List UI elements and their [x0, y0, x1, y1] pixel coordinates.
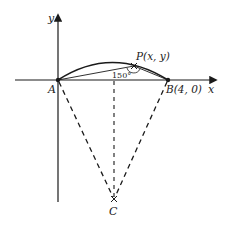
point-a-label: A [47, 83, 56, 96]
x-axis-label: x [208, 83, 215, 96]
segment-p-b [134, 66, 168, 80]
y-axis-label: y [47, 12, 55, 25]
angle-label: 150° [112, 71, 131, 80]
point-a-dot [56, 78, 60, 82]
point-b-label: B(4, 0) [165, 83, 202, 95]
dashed-line-a-c [59, 82, 113, 197]
point-c-label: C [109, 205, 118, 218]
point-b-dot [166, 78, 170, 82]
dashed-line-b-c [115, 82, 167, 197]
geometry-diagram: y x A B(4, 0) P(x, y) C 150° [0, 0, 230, 230]
point-p-label: P(x, y) [135, 50, 170, 62]
